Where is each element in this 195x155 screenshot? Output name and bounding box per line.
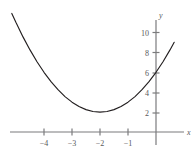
y-tick-label: 10 [141,29,149,38]
y-tick-label: 2 [145,109,149,118]
plot-canvas: x y −4 −3 −2 −1 2 4 6 8 [0,0,195,155]
parabola-figure: x y −4 −3 −2 −1 2 4 6 8 [0,0,195,155]
y-tick-label: 6 [145,69,149,78]
y-tick-label: 8 [145,49,149,58]
x-tick-label: −4 [40,139,49,148]
parabola-curve [12,13,174,112]
y-tick-label: 4 [145,89,149,98]
y-tick-labels: 2 4 6 8 10 [141,29,149,119]
x-tick-label: −2 [96,139,105,148]
y-axis-label: y [158,11,163,20]
x-tick-label: −1 [124,139,133,148]
x-tick-label: −3 [68,139,77,148]
x-tick-labels: −4 −3 −2 −1 [40,139,133,148]
x-axis-label: x [186,128,191,137]
